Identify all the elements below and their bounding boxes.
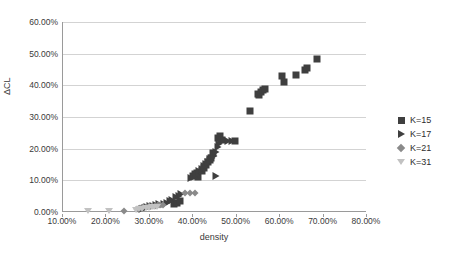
x-axis-tick-label: 40.00% xyxy=(178,216,207,226)
scatter-chart: ΔCL 0.00%10.00%20.00%30.00%40.00%50.00%6… xyxy=(0,0,459,272)
x-axis-tick-labels: 10.00%20.00%30.00%40.00%50.00%60.00%70.0… xyxy=(62,214,366,230)
x-axis-tick-label: 30.00% xyxy=(134,216,163,226)
y-axis-tick-labels: 0.00%10.00%20.00%30.00%40.00%50.00%60.00… xyxy=(0,22,58,212)
y-axis-tick-label: 30.00% xyxy=(2,112,58,122)
legend-item-label: K=15 xyxy=(410,115,431,125)
legend-item-label: K=31 xyxy=(410,157,431,167)
data-point xyxy=(303,64,310,71)
y-axis-tick-label: 10.00% xyxy=(2,175,58,185)
legend-item-k21[interactable]: K=21 xyxy=(396,141,458,155)
x-axis-tick-label: 20.00% xyxy=(91,216,120,226)
data-point xyxy=(314,56,321,63)
square-marker-icon xyxy=(396,115,406,125)
data-point xyxy=(281,78,288,85)
data-point xyxy=(246,107,253,114)
data-point xyxy=(293,71,300,78)
plot-area xyxy=(62,22,366,212)
chart-legend: K=15K=17K=21K=31 xyxy=(396,113,458,169)
x-axis-tick-label: 80.00% xyxy=(352,216,381,226)
legend-item-label: K=17 xyxy=(410,129,431,139)
triangle-down-marker-icon xyxy=(396,157,406,167)
y-axis-tick-label: 40.00% xyxy=(2,80,58,90)
data-point xyxy=(228,137,235,145)
data-points-layer xyxy=(63,22,366,211)
data-point xyxy=(153,204,161,210)
x-axis-tick-label: 50.00% xyxy=(221,216,250,226)
data-point xyxy=(191,190,198,197)
legend-item-k31[interactable]: K=31 xyxy=(396,155,458,169)
diamond-marker-icon xyxy=(396,143,406,153)
legend-item-label: K=21 xyxy=(410,143,431,153)
triangle-right-marker-icon xyxy=(396,129,406,139)
y-axis-tick-label: 50.00% xyxy=(2,49,58,59)
x-axis-tick-label: 70.00% xyxy=(308,216,337,226)
x-axis-tick-label: 60.00% xyxy=(265,216,294,226)
x-axis-tick-label: 10.00% xyxy=(48,216,77,226)
data-point xyxy=(212,172,219,180)
x-axis-title: density xyxy=(62,232,366,242)
legend-item-k15[interactable]: K=15 xyxy=(396,113,458,127)
y-axis-tick-label: 20.00% xyxy=(2,144,58,154)
y-axis-tick-label: 60.00% xyxy=(2,17,58,27)
data-point xyxy=(262,86,269,93)
legend-item-k17[interactable]: K=17 xyxy=(396,127,458,141)
